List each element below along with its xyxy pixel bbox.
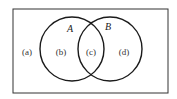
- venn-diagram: A B (a) (b) (c) (d): [0, 0, 177, 99]
- region-b-label: (b): [56, 47, 67, 57]
- region-c-label: (c): [86, 47, 96, 57]
- region-a-label: (a): [22, 47, 32, 57]
- set-b-label: B: [105, 21, 111, 32]
- region-d-label: (d): [119, 47, 130, 57]
- set-a-label: A: [66, 23, 74, 34]
